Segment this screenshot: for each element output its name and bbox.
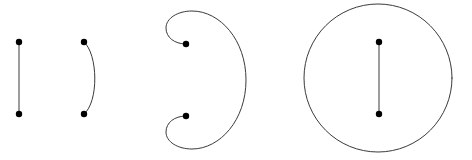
arc-endpoint-bottom [81, 111, 87, 117]
arc-endpoint-top [81, 39, 87, 45]
chord-endpoint-top [376, 39, 382, 45]
chord-endpoint-bottom [376, 111, 382, 117]
figure-canvas [0, 0, 472, 160]
double-spiral-endpoint-lower [183, 113, 189, 119]
canvas-background [0, 0, 472, 160]
segment-endpoint-top [16, 39, 22, 45]
double-spiral-endpoint-upper [183, 41, 189, 47]
segment-endpoint-bottom [16, 111, 22, 117]
